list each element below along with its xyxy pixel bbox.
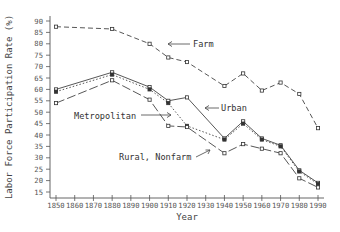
y-axis-title: Labor Force Participation Rate (%) <box>4 15 14 199</box>
x-tick-label: 1880 <box>103 201 120 210</box>
y-tick-label: 20 <box>34 176 43 185</box>
y-tick-label: 65 <box>34 74 43 83</box>
data-point <box>260 89 263 92</box>
data-point <box>111 73 114 76</box>
y-tick-label: 25 <box>34 165 43 174</box>
data-point <box>111 27 114 30</box>
x-ticks: 1850186018701880189019001910192019301940… <box>47 195 326 210</box>
y-tick-label: 75 <box>34 51 43 60</box>
data-point <box>148 42 151 45</box>
data-point <box>223 138 226 141</box>
annotation-rural-nonfarm: Rural, Nonfarm <box>119 150 210 162</box>
data-point <box>185 60 188 63</box>
annotation-farm: Farm <box>168 39 214 49</box>
series-metropolitan <box>54 73 319 186</box>
x-tick-label: 1980 <box>291 201 308 210</box>
y-tick-label: 90 <box>34 17 43 26</box>
data-point <box>167 56 170 59</box>
data-point <box>316 127 319 130</box>
x-tick-label: 1910 <box>160 201 177 210</box>
annotation-urban: Urban <box>205 103 247 113</box>
y-tick-label: 85 <box>34 28 43 37</box>
data-point <box>242 143 245 146</box>
line-chart: 15202530354045505560657075808590 1850186… <box>0 0 340 232</box>
data-point <box>279 145 282 148</box>
y-tick-label: 50 <box>34 108 43 117</box>
y-tick-label: 80 <box>34 39 43 48</box>
data-point <box>316 182 319 185</box>
x-tick-label: 1860 <box>66 201 83 210</box>
data-point <box>167 101 170 104</box>
series-line-metropolitan <box>56 75 318 184</box>
rural-nonfarm-label: Rural, Nonfarm <box>119 152 191 162</box>
x-tick-label: 1920 <box>178 201 195 210</box>
data-point <box>298 177 301 180</box>
y-tick-label: 70 <box>34 62 43 71</box>
urban-label: Urban <box>221 103 247 113</box>
annotation-metropolitan: Metropolitan <box>74 111 171 121</box>
y-tick-label: 15 <box>34 188 43 197</box>
data-point <box>54 25 57 28</box>
y-tick-label: 30 <box>34 153 43 162</box>
y-tick-label: 40 <box>34 131 43 140</box>
data-point <box>298 92 301 95</box>
data-point <box>242 122 245 125</box>
data-point <box>223 84 226 87</box>
farm-label: Farm <box>193 39 214 49</box>
y-tick-label: 55 <box>34 96 43 105</box>
y-tick-label: 45 <box>34 119 43 128</box>
series-rural-nonfarm <box>54 79 319 189</box>
x-tick-label: 1990 <box>309 201 326 210</box>
x-tick-label: 1960 <box>253 201 270 210</box>
metropolitan-label: Metropolitan <box>74 111 136 121</box>
series-group <box>54 25 319 189</box>
data-point <box>185 96 188 99</box>
x-tick-label: 1850 <box>47 201 64 210</box>
x-tick-label: 1940 <box>216 201 233 210</box>
data-point <box>242 72 245 75</box>
y-tick-label: 60 <box>34 85 43 94</box>
data-point <box>111 79 114 82</box>
data-point <box>260 138 263 141</box>
data-point <box>316 186 319 189</box>
data-point <box>54 101 57 104</box>
data-point <box>279 81 282 84</box>
data-point <box>167 124 170 127</box>
x-tick-label: 1870 <box>85 201 102 210</box>
x-tick-label: 1930 <box>197 201 214 210</box>
x-axis-title: Year <box>176 212 198 222</box>
x-tick-label: 1890 <box>122 201 139 210</box>
axes <box>50 16 324 198</box>
x-tick-label: 1970 <box>272 201 289 210</box>
y-ticks: 15202530354045505560657075808590 <box>34 17 50 197</box>
data-point <box>54 90 57 93</box>
data-point <box>148 98 151 101</box>
x-tick-label: 1950 <box>234 201 251 210</box>
data-point <box>148 88 151 91</box>
data-point <box>185 125 188 128</box>
x-tick-label: 1900 <box>141 201 158 210</box>
data-point <box>298 170 301 173</box>
data-point <box>279 152 282 155</box>
data-point <box>260 147 263 150</box>
data-point <box>223 152 226 155</box>
y-tick-label: 35 <box>34 142 43 151</box>
